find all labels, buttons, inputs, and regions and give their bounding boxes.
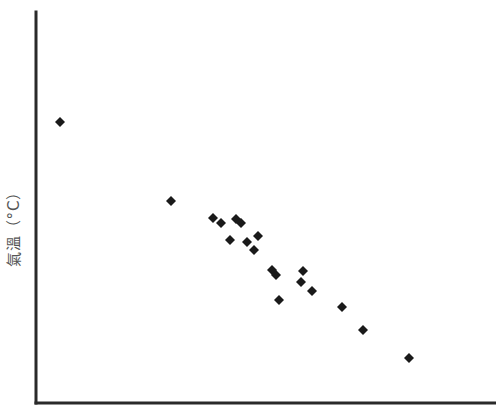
y-axis-label-text: 氣溫（°C） — [3, 183, 24, 267]
data-point-diamond — [55, 117, 65, 127]
data-point-diamond — [242, 237, 252, 247]
data-point-diamond — [296, 277, 306, 287]
data-points — [55, 117, 414, 363]
data-point-diamond — [307, 286, 317, 296]
data-point-diamond — [337, 302, 347, 312]
x-axis-label — [36, 412, 496, 420]
data-point-diamond — [274, 295, 284, 305]
data-point-diamond — [208, 213, 218, 223]
data-point-diamond — [404, 353, 414, 363]
y-axis-label: 氣溫（°C） — [2, 175, 24, 275]
data-point-diamond — [166, 196, 176, 206]
data-point-diamond — [298, 266, 308, 276]
data-point-diamond — [249, 245, 259, 255]
data-point-diamond — [216, 218, 226, 228]
data-point-diamond — [358, 325, 368, 335]
data-point-diamond — [225, 235, 235, 245]
scatter-chart — [0, 0, 496, 420]
data-point-diamond — [253, 231, 263, 241]
